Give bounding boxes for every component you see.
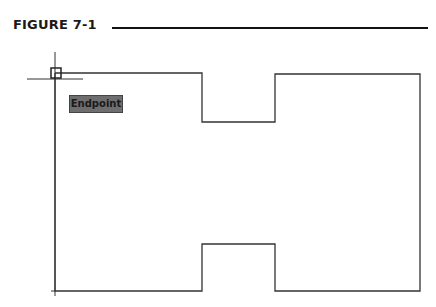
- osnap-endpoint-tooltip: Endpoint: [69, 95, 123, 113]
- cad-drawing-canvas[interactable]: [0, 0, 436, 307]
